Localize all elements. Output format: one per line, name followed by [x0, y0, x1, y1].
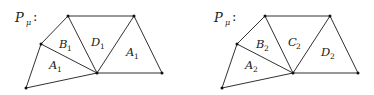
triangulation-figure: P μ : B 1 D 1 A 1 A 1	[0, 0, 374, 95]
region-label-d1-sub: 1	[100, 42, 105, 51]
edges-left	[26, 16, 162, 88]
region-label-a1-right: A	[125, 45, 134, 59]
triangulation-right: P μ : B 2 C 2 A 2 D 2	[213, 9, 360, 90]
region-label-a2: A	[244, 58, 253, 72]
region-label-c2-sub: 2	[296, 42, 301, 51]
region-label-b2-sub: 2	[264, 44, 269, 53]
title-left-subscript: μ	[26, 18, 31, 27]
edges-right	[222, 16, 358, 88]
title-left: P	[14, 10, 24, 25]
region-label-d2: D	[320, 45, 330, 59]
region-label-a2-sub: 2	[253, 65, 258, 74]
title-right-subscript: μ	[225, 18, 230, 27]
region-label-a1-right-sub: 1	[134, 52, 139, 61]
region-label-a1-left: A	[48, 58, 57, 72]
region-label-a1-left-sub: 1	[57, 65, 62, 74]
title-right: P	[213, 10, 223, 25]
vertices-left	[25, 15, 164, 90]
region-label-d2-sub: 2	[330, 52, 335, 61]
title-right-colon: :	[232, 9, 236, 24]
triangulation-left: P μ : B 1 D 1 A 1 A 1	[14, 9, 164, 90]
region-label-b1-sub: 1	[67, 44, 72, 53]
vertices-right	[221, 15, 360, 90]
title-left-colon: :	[33, 9, 37, 24]
region-label-d1: D	[90, 35, 100, 49]
